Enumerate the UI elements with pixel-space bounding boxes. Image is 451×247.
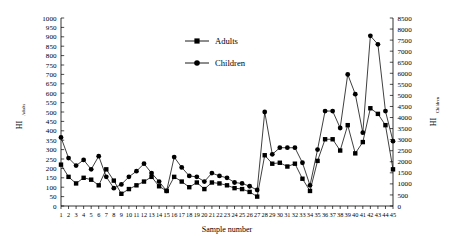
x-tick-label: 38 [337, 211, 343, 218]
data-point-square [59, 162, 63, 166]
x-tick-label: 3 [75, 211, 78, 218]
x-tick-label: 34 [307, 211, 314, 218]
x-tick-label: 32 [292, 211, 298, 218]
x-tick-label: 28 [262, 211, 268, 218]
data-point-square [202, 187, 206, 191]
data-point-circle [353, 92, 358, 97]
data-point-square [300, 177, 304, 181]
y-tick-label-left: 250 [46, 156, 57, 164]
x-tick-label: 6 [97, 211, 100, 218]
x-tick-label: 33 [299, 211, 305, 218]
y-tick-label-right: 8000 [398, 26, 413, 34]
data-point-square [112, 178, 116, 182]
data-point-circle [300, 160, 305, 165]
y-tick-label-left: 1000 [42, 15, 57, 23]
x-tick-label: 7 [105, 211, 108, 218]
y-axis-right-title-text: HI [429, 117, 438, 126]
legend-label: Children [215, 58, 246, 68]
data-point-circle [194, 174, 199, 179]
y-tick-label-left: 850 [46, 43, 57, 51]
x-tick-label: 16 [171, 211, 177, 218]
x-tick-label: 25 [239, 211, 245, 218]
y-tick-label-left: 900 [46, 33, 57, 41]
data-point-square [330, 137, 334, 141]
x-tick-label: 43 [375, 211, 381, 218]
y-tick-label-right: 2000 [398, 158, 413, 166]
x-tick-label: 30 [277, 211, 283, 218]
x-tick-label: 39 [345, 211, 351, 218]
y-tick-label-right: 7500 [398, 37, 413, 45]
series-adults [59, 106, 395, 199]
data-point-square [247, 190, 251, 194]
x-tick-label: 5 [90, 211, 93, 218]
data-point-circle [179, 165, 184, 170]
data-point-square [142, 179, 146, 183]
x-tick-label: 45 [390, 211, 396, 218]
chart-container: 0501001502002503003504004505005506006507… [0, 0, 451, 247]
data-point-square [157, 184, 161, 188]
data-point-square [391, 167, 395, 171]
y-tick-label-left: 500 [46, 109, 57, 117]
data-point-square [66, 175, 70, 179]
x-tick-label: 23 [224, 211, 230, 218]
x-tick-label: 31 [284, 211, 290, 218]
legend-marker-square [194, 38, 199, 43]
y-tick-label-right: 1000 [398, 180, 413, 188]
legend-label: Adults [215, 36, 239, 46]
data-point-square [361, 140, 365, 144]
y-tick-label-right: 4000 [398, 114, 413, 122]
y-axis-left-title-sub: Adults [21, 104, 26, 116]
x-tick-label: 29 [269, 211, 275, 218]
y-axis-right-title-sub: Children [435, 96, 440, 113]
data-point-circle [262, 110, 267, 115]
data-point-circle [225, 175, 230, 180]
y-tick-label-right: 6500 [398, 59, 413, 67]
data-point-square [308, 189, 312, 193]
legend-item-children[interactable]: Children [185, 58, 246, 68]
x-tick-label: 17 [179, 211, 185, 218]
data-point-square [285, 164, 289, 168]
x-tick-label: 9 [120, 211, 123, 218]
y-tick-label-left: 750 [46, 62, 57, 70]
x-tick-label: 36 [322, 211, 328, 218]
data-point-square [263, 153, 267, 157]
data-point-circle [202, 179, 207, 184]
data-point-square [210, 180, 214, 184]
legend-item-adults[interactable]: Adults [185, 36, 239, 46]
y-tick-label-left: 400 [46, 127, 57, 135]
y-tick-label-right: 6000 [398, 70, 413, 78]
x-tick-label: 19 [194, 211, 200, 218]
x-tick-label: 27 [254, 211, 260, 218]
data-point-circle [360, 130, 365, 135]
data-point-square [97, 183, 101, 187]
data-point-circle [149, 171, 154, 176]
x-tick-label: 26 [246, 211, 252, 218]
y-tick-label-right: 7000 [398, 48, 413, 56]
data-point-square [338, 148, 342, 152]
x-tick-label: 14 [156, 211, 163, 218]
data-point-square [217, 181, 221, 185]
y-tick-label-left: 0 [53, 203, 57, 211]
data-point-circle [285, 145, 290, 150]
x-tick-label: 20 [201, 211, 207, 218]
x-tick-label: 15 [163, 211, 169, 218]
data-point-square [346, 123, 350, 127]
data-point-circle [134, 169, 139, 174]
y-tick-label-right: 4500 [398, 103, 413, 111]
data-point-circle [308, 183, 313, 188]
data-point-circle [217, 174, 222, 179]
data-point-circle [157, 179, 162, 184]
data-point-circle [391, 139, 396, 144]
data-point-circle [240, 181, 245, 186]
data-point-square [278, 161, 282, 165]
data-point-square [172, 175, 176, 179]
y-tick-label-left: 50 [49, 193, 57, 201]
x-tick-label: 42 [367, 211, 373, 218]
data-point-circle [142, 161, 147, 166]
data-point-square [89, 177, 93, 181]
x-tick-label: 4 [82, 211, 86, 218]
y-tick-label-right: 8500 [398, 15, 413, 23]
y-tick-label-left: 200 [46, 165, 57, 173]
data-point-circle [187, 174, 192, 179]
x-tick-label: 35 [314, 211, 320, 218]
